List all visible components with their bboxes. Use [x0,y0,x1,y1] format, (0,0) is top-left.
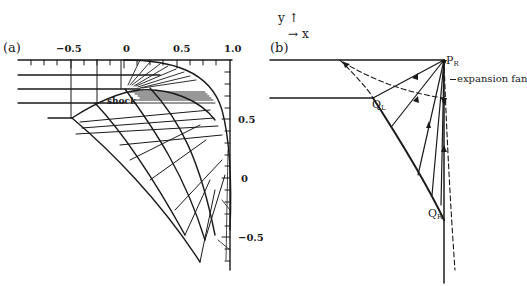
top-tick-0.5: 0.5 [173,44,190,54]
right-arrow-icon: → [288,27,298,41]
x-axis-label: → x [288,28,309,40]
top-tick-1.0: 1.0 [224,44,241,54]
panel-b-label: (b) [270,41,288,54]
right-tick-minus-0.5: −0.5 [238,233,264,243]
right-tick-0.5: 0.5 [238,115,255,125]
point-PR-label: PR [446,55,459,68]
point-QR-label: QR [428,208,442,221]
panel-a-label: (a) [3,41,21,54]
expansion-fan-annotation: expansion fan [450,74,527,84]
shock-annotation: shock [107,97,136,106]
leader-line-icon [450,79,456,80]
y-axis-label: y ↑ [278,12,299,24]
right-tick-0: 0 [241,174,248,184]
top-tick-minus-0.5: −0.5 [56,44,82,54]
top-tick-0: 0 [123,44,130,54]
up-arrow-icon: ↑ [289,11,299,25]
point-QL-label: QL [372,99,386,112]
